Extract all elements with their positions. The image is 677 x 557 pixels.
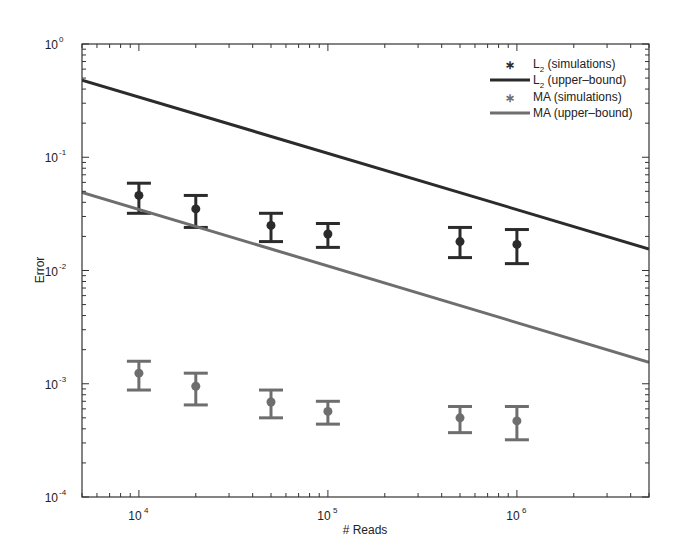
data-point: [512, 416, 521, 425]
plot-area: [82, 80, 649, 440]
data-point: [191, 382, 200, 391]
legend-item: MA (upper–bound): [490, 106, 632, 120]
error-bar: [505, 230, 529, 264]
x-tick-label: 10: [317, 509, 331, 523]
data-point: [323, 230, 332, 239]
y-tick-label-exponent: -3: [59, 375, 67, 384]
error-bar: [448, 227, 472, 257]
error-bar: [316, 224, 340, 248]
data-point: [323, 407, 332, 416]
data-point: [456, 413, 465, 422]
legend-marker-icon: ∗: [505, 58, 515, 72]
y-tick-label-exponent: -2: [59, 262, 67, 271]
legend-label: MA (upper–bound): [533, 106, 632, 120]
data-point: [456, 237, 465, 246]
error-bar: [259, 390, 283, 418]
x-tick-label-exponent: 4: [144, 506, 149, 515]
data-point: [512, 240, 521, 249]
legend-item: L2 (upper–bound): [490, 73, 626, 90]
series-group: [82, 80, 649, 440]
y-tick-label: 10: [45, 38, 59, 52]
legend-label: L2 (upper–bound): [533, 73, 626, 90]
x-tick-label-exponent: 5: [333, 506, 338, 515]
data-point: [267, 398, 276, 407]
error-bar: [127, 361, 151, 390]
y-tick-label-exponent: -1: [59, 148, 67, 157]
y-axis-label: Error: [33, 257, 47, 284]
error-bar: [448, 406, 472, 432]
data-point: [191, 204, 200, 213]
data-point: [267, 221, 276, 230]
x-tick-label: 10: [128, 509, 142, 523]
error-bar: [184, 373, 208, 405]
error-bar: [259, 213, 283, 241]
data-point: [134, 191, 143, 200]
chart: 10410510610010-110-210-310-4 # Reads Err…: [0, 0, 677, 557]
y-tick-label-exponent: -4: [59, 488, 67, 497]
data-point: [134, 369, 143, 378]
x-tick-label-exponent: 6: [522, 506, 527, 515]
y-tick-label-exponent: 0: [59, 35, 64, 44]
legend-label: L2 (simulations): [533, 57, 616, 74]
legend: ∗L2 (simulations)L2 (upper–bound)∗MA (si…: [490, 57, 632, 120]
y-tick-label: 10: [45, 491, 59, 505]
legend-marker-icon: ∗: [505, 91, 515, 105]
error-bar: [505, 406, 529, 439]
x-tick-label: 10: [506, 509, 520, 523]
legend-item: ∗L2 (simulations): [505, 57, 616, 74]
y-tick-label: 10: [45, 151, 59, 165]
y-tick-label: 10: [45, 378, 59, 392]
error-bar: [316, 401, 340, 424]
legend-item: ∗MA (simulations): [505, 90, 622, 105]
upper-bound-line: [82, 192, 649, 362]
x-axis-label: # Reads: [343, 523, 388, 537]
legend-label: MA (simulations): [533, 90, 622, 104]
